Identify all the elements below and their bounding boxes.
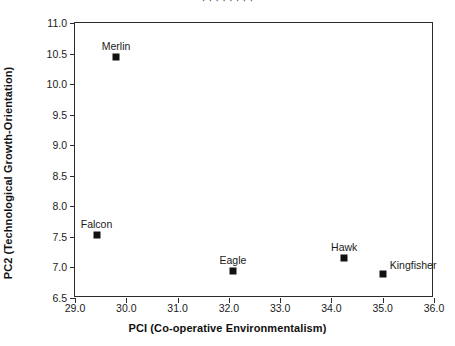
data-point-marker[interactable] xyxy=(379,270,386,277)
y-tick-label: 8.5 xyxy=(52,171,67,182)
x-tick-label: 31.0 xyxy=(167,303,187,314)
x-tick-label: 32.0 xyxy=(219,303,239,314)
x-tick-label: 34.0 xyxy=(321,303,341,314)
y-tick-label: 7.0 xyxy=(52,262,67,273)
y-tick-mark xyxy=(70,84,75,85)
data-point-label: Falcon xyxy=(81,219,113,230)
y-tick-mark xyxy=(70,206,75,207)
y-tick-label: 7.5 xyxy=(52,232,67,243)
clipped-caption-text: · · · · · · · · xyxy=(0,0,455,6)
data-point-label: Merlin xyxy=(102,40,131,51)
x-tick-label: 36.0 xyxy=(424,303,444,314)
y-tick-label: 9.5 xyxy=(52,109,67,120)
y-tick-label: 10.0 xyxy=(47,79,67,90)
data-point-label: Hawk xyxy=(331,242,357,253)
data-point-marker[interactable] xyxy=(93,232,100,239)
y-tick-mark xyxy=(70,176,75,177)
y-tick-label: 9.0 xyxy=(52,140,67,151)
x-tick-label: 29.0 xyxy=(65,303,85,314)
scatter-plot-figure: · · · · · · · · PC2 (Technological Growt… xyxy=(0,0,455,346)
x-tick-label: 30.0 xyxy=(116,303,136,314)
data-point-marker[interactable] xyxy=(113,53,120,60)
x-tick-label: 33.0 xyxy=(270,303,290,314)
y-tick-label: 8.0 xyxy=(52,201,67,212)
plot-area: 6.57.07.58.08.59.09.510.010.511.0 29.030… xyxy=(74,22,433,297)
y-tick-mark xyxy=(70,267,75,268)
data-point-marker[interactable] xyxy=(341,255,348,262)
y-tick-mark xyxy=(70,237,75,238)
data-point-label: Eagle xyxy=(220,254,247,265)
y-tick-mark xyxy=(70,145,75,146)
y-axis-title: PC2 (Technological Growth-Orientation) xyxy=(0,0,18,346)
y-tick-label: 10.5 xyxy=(47,48,67,59)
y-tick-mark xyxy=(70,23,75,24)
data-point-marker[interactable] xyxy=(229,267,236,274)
y-tick-mark xyxy=(70,54,75,55)
data-point-label: Kingfisher xyxy=(390,259,437,270)
y-tick-label: 11.0 xyxy=(47,18,67,29)
x-tick-label: 35.0 xyxy=(372,303,392,314)
y-tick-mark xyxy=(70,115,75,116)
y-axis-title-text: PC2 (Technological Growth-Orientation) xyxy=(2,67,14,280)
x-axis-title: PCI (Co-operative Environmentalism) xyxy=(0,322,455,334)
